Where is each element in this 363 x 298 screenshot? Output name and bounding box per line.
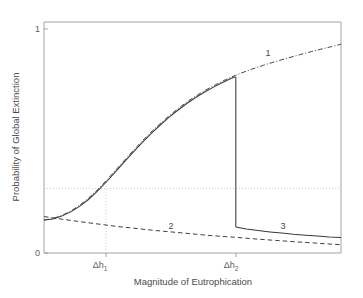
tick-marks bbox=[44, 29, 236, 257]
dh1-subscript: 1 bbox=[104, 265, 108, 272]
bifurcation-chart-svg: 1 0 Δh1 Δh2 1 2 3 Magnitude of Eutrophic… bbox=[0, 0, 363, 298]
y-tick-label-0: 0 bbox=[35, 248, 40, 258]
guide-lines bbox=[44, 184, 341, 253]
series-3-realized-rising bbox=[44, 77, 235, 220]
x-tick-label-dh2: Δh2 bbox=[224, 260, 239, 272]
series-3-post-collapse bbox=[236, 227, 341, 238]
y-tick-label-1: 1 bbox=[35, 24, 40, 34]
dh2-symbol: Δh bbox=[224, 260, 235, 270]
dh1-symbol: Δh bbox=[93, 260, 104, 270]
svg-text:Δh2: Δh2 bbox=[224, 260, 239, 272]
x-tick-label-dh1: Δh1 bbox=[93, 260, 108, 272]
curve-label-2: 2 bbox=[168, 221, 173, 231]
dh2-subscript: 2 bbox=[235, 265, 239, 272]
x-axis-title: Magnitude of Eutrophication bbox=[134, 276, 252, 287]
svg-text:Δh1: Δh1 bbox=[93, 260, 108, 272]
series-1-upper-branch bbox=[44, 44, 341, 220]
curve-label-3: 3 bbox=[280, 221, 285, 231]
chart-figure: 1 0 Δh1 Δh2 1 2 3 Magnitude of Eutrophic… bbox=[0, 0, 363, 298]
y-axis-title: Probability of Global Extinction bbox=[10, 73, 21, 202]
series-2-lower-branch bbox=[44, 217, 341, 245]
plot-axes bbox=[44, 22, 341, 253]
curve-label-1: 1 bbox=[265, 48, 270, 58]
